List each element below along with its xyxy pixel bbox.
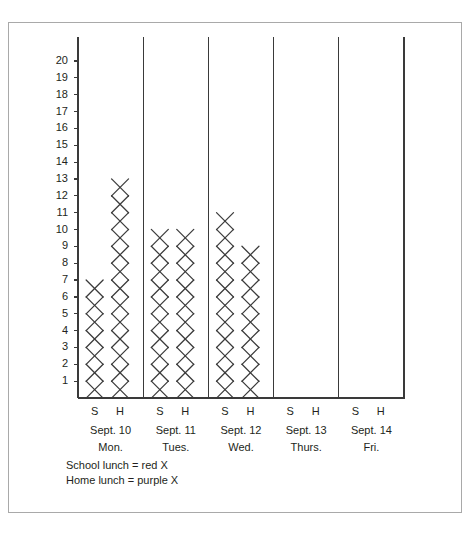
x-mark	[242, 347, 259, 364]
y-axis-tick-label-13: 13	[42, 173, 68, 184]
x-mark	[151, 263, 168, 280]
y-axis-tick-label-12: 12	[42, 190, 68, 201]
x-mark	[217, 347, 234, 364]
x-mark	[242, 263, 259, 280]
x-label-date-4: Sept. 14	[329, 424, 413, 437]
y-axis-tick-label-17: 17	[42, 106, 68, 117]
x-mark	[242, 280, 259, 297]
y-axis-tick-label-19: 19	[42, 72, 68, 83]
x-mark	[112, 331, 129, 348]
legend-school-lunch: School lunch = red X	[66, 458, 178, 473]
y-axis-tick-label-6: 6	[42, 291, 68, 302]
x-label-weekday-4: Fri.	[329, 441, 413, 454]
y-axis-tick-label-14: 14	[42, 156, 68, 167]
x-mark	[242, 297, 259, 314]
x-mark	[86, 331, 103, 348]
x-mark	[112, 263, 129, 280]
x-label-home-3: H	[301, 405, 331, 417]
x-mark	[177, 246, 194, 263]
x-mark	[112, 381, 129, 398]
y-axis-tick-label-10: 10	[42, 224, 68, 235]
x-mark	[151, 331, 168, 348]
x-mark	[112, 280, 129, 297]
x-mark	[112, 196, 129, 213]
x-mark	[112, 297, 129, 314]
x-mark	[151, 297, 168, 314]
x-mark	[217, 213, 234, 230]
x-mark	[112, 246, 129, 263]
y-axis-tick-label-5: 5	[42, 308, 68, 319]
x-mark	[177, 364, 194, 381]
x-mark	[217, 246, 234, 263]
x-mark	[112, 229, 129, 246]
x-mark	[177, 297, 194, 314]
y-axis-tick-label-8: 8	[42, 257, 68, 268]
x-mark	[217, 280, 234, 297]
chart-legend: School lunch = red X Home lunch = purple…	[66, 458, 178, 488]
x-mark	[86, 314, 103, 331]
x-mark	[177, 229, 194, 246]
y-axis-tick-label-20: 20	[42, 55, 68, 66]
y-axis-tick-label-18: 18	[42, 89, 68, 100]
y-axis-tick-label-9: 9	[42, 240, 68, 251]
x-mark	[86, 347, 103, 364]
x-mark	[217, 314, 234, 331]
x-mark	[86, 381, 103, 398]
x-mark	[217, 297, 234, 314]
x-mark	[151, 381, 168, 398]
x-mark	[112, 347, 129, 364]
x-mark	[177, 347, 194, 364]
chart-frame: 2019181716151413121110987654321 SHSept. …	[8, 22, 462, 513]
x-mark	[217, 364, 234, 381]
legend-home-lunch: Home lunch = purple X	[66, 473, 178, 488]
x-mark	[217, 229, 234, 246]
x-mark	[112, 179, 129, 196]
x-mark	[177, 381, 194, 398]
x-mark	[177, 314, 194, 331]
x-mark	[112, 314, 129, 331]
y-axis-tick-label-2: 2	[42, 358, 68, 369]
x-mark	[217, 381, 234, 398]
x-mark	[217, 263, 234, 280]
y-axis-tick-label-3: 3	[42, 341, 68, 352]
y-axis-tick-label-1: 1	[42, 375, 68, 386]
y-axis-tick-label-7: 7	[42, 274, 68, 285]
x-mark	[86, 297, 103, 314]
x-mark	[242, 314, 259, 331]
x-mark	[86, 364, 103, 381]
y-axis-tick-label-11: 11	[42, 207, 68, 218]
x-mark	[151, 347, 168, 364]
x-mark	[177, 263, 194, 280]
x-mark	[242, 381, 259, 398]
x-mark	[177, 331, 194, 348]
x-mark	[177, 280, 194, 297]
x-mark	[217, 331, 234, 348]
x-mark	[242, 331, 259, 348]
x-label-home-4: H	[366, 405, 396, 417]
x-mark	[151, 246, 168, 263]
pictograph-chart: 2019181716151413121110987654321 SHSept. …	[9, 23, 463, 514]
x-mark	[242, 364, 259, 381]
x-label-home-0: H	[105, 405, 135, 417]
x-mark	[112, 364, 129, 381]
x-mark	[151, 314, 168, 331]
x-mark	[151, 364, 168, 381]
x-label-home-1: H	[170, 405, 200, 417]
x-label-home-2: H	[235, 405, 265, 417]
x-mark	[151, 280, 168, 297]
x-mark	[151, 229, 168, 246]
y-axis-tick-label-4: 4	[42, 325, 68, 336]
x-mark	[112, 213, 129, 230]
x-mark	[86, 280, 103, 297]
y-axis-tick-label-15: 15	[42, 139, 68, 150]
x-mark	[242, 246, 259, 263]
y-axis-tick-label-16: 16	[42, 122, 68, 133]
